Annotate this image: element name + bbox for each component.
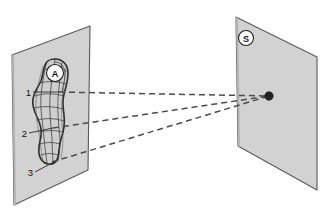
callout-3-label: 3 [28,167,33,178]
point-source-dot [265,92,273,100]
screen-plane-badge: S [239,31,254,46]
badge-label-s: S [243,34,249,44]
object-plane-badge: A [47,65,64,82]
projection-diagram: 1 2 3 A S [0,0,325,220]
figure-container: 1 2 3 A S [0,0,325,220]
badge-label-a: A [52,69,59,79]
callout-2-label: 2 [22,128,27,139]
callout-1-label: 1 [26,87,31,98]
